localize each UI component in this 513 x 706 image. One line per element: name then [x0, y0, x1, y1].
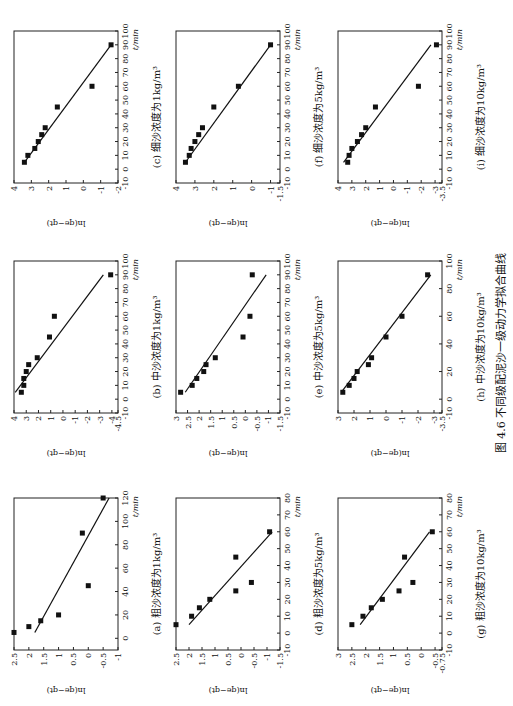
svg-text:t/min: t/min: [293, 29, 302, 50]
svg-text:60: 60: [121, 563, 130, 573]
svg-text:10: 10: [121, 150, 130, 160]
svg-text:-3.5: -3.5: [438, 416, 447, 431]
svg-text:0: 0: [248, 186, 257, 191]
svg-text:t/min: t/min: [293, 259, 302, 280]
svg-text:20: 20: [121, 136, 130, 146]
svg-text:80: 80: [283, 54, 292, 64]
svg-text:60: 60: [121, 81, 130, 91]
svg-text:40: 40: [283, 560, 292, 570]
figure-landscape: 0204060801001202.521.510.50-0.5-1t/minln…: [0, 0, 513, 706]
svg-text:2: 2: [45, 186, 54, 191]
svg-text:0.5: 0.5: [403, 653, 412, 666]
svg-text:0.5: 0.5: [230, 416, 239, 429]
svg-text:0: 0: [417, 653, 426, 658]
svg-text:40: 40: [121, 586, 130, 596]
svg-text:-2: -2: [83, 416, 92, 424]
svg-text:-1: -1: [403, 186, 412, 194]
svg-text:t/min: t/min: [131, 29, 140, 50]
svg-text:40: 40: [445, 339, 454, 349]
svg-text:2: 2: [34, 416, 43, 421]
svg-text:0: 0: [445, 631, 454, 636]
svg-text:-0.5: -0.5: [250, 653, 259, 668]
svg-text:20: 20: [121, 366, 130, 376]
svg-text:-0.5: -0.5: [99, 653, 108, 668]
svg-text:3: 3: [172, 416, 181, 421]
svg-text:90: 90: [283, 40, 292, 50]
svg-text:-0.75: -0.75: [438, 653, 447, 674]
svg-text:120: 120: [121, 490, 130, 505]
svg-text:-1: -1: [398, 416, 407, 424]
panel-caption: (g) 粗沙浓度为10kg/m³: [472, 470, 487, 698]
svg-text:t/min: t/min: [455, 259, 464, 280]
svg-text:20: 20: [445, 594, 454, 604]
svg-text:80: 80: [283, 493, 292, 503]
svg-text:-1: -1: [114, 653, 123, 661]
panel-caption: (i) 细沙浓度为10kg/m³: [472, 3, 487, 231]
svg-text:30: 30: [121, 353, 130, 363]
svg-text:0: 0: [389, 186, 398, 191]
svg-text:80: 80: [445, 54, 454, 64]
svg-text:2: 2: [25, 653, 34, 658]
panel-caption: (h) 中沙浓度为10kg/m³: [472, 233, 487, 461]
svg-text:70: 70: [445, 67, 454, 77]
svg-text:50: 50: [121, 325, 130, 335]
svg-text:60: 60: [445, 527, 454, 537]
svg-text:1: 1: [55, 653, 64, 658]
chart-panel-d: -10010203040506070802.521.510.50-0.5-1-1…: [168, 470, 328, 698]
svg-text:10: 10: [445, 611, 454, 621]
svg-text:ln(qe−qt): ln(qe−qt): [209, 449, 248, 458]
svg-text:3: 3: [348, 186, 357, 191]
svg-text:0: 0: [121, 167, 130, 172]
svg-text:0: 0: [283, 167, 292, 172]
svg-text:3: 3: [334, 416, 343, 421]
svg-text:90: 90: [283, 270, 292, 280]
svg-text:2.5: 2.5: [348, 653, 357, 666]
panel-caption: (b) 中沙浓度为1kg/m³: [148, 233, 163, 461]
svg-text:70: 70: [121, 297, 130, 307]
svg-text:10: 10: [445, 150, 454, 160]
svg-text:60: 60: [445, 81, 454, 91]
svg-text:40: 40: [283, 109, 292, 119]
chart-panel-g: -100102030405060708032.521.510.50-0.5-0.…: [330, 470, 490, 698]
svg-text:2: 2: [362, 186, 371, 191]
svg-text:1: 1: [47, 416, 56, 421]
svg-text:-1.5: -1.5: [276, 186, 285, 201]
svg-text:-3.5: -3.5: [438, 186, 447, 201]
svg-text:30: 30: [445, 123, 454, 133]
svg-text:0: 0: [121, 636, 130, 641]
svg-text:70: 70: [445, 510, 454, 520]
svg-text:0: 0: [121, 397, 130, 402]
chart-panel-c: -10010203040506070809010043210-1-2t/minl…: [6, 3, 166, 231]
svg-text:50: 50: [283, 325, 292, 335]
svg-text:-1.5: -1.5: [276, 653, 285, 668]
svg-text:60: 60: [283, 81, 292, 91]
svg-text:10: 10: [283, 150, 292, 160]
svg-text:100: 100: [445, 253, 454, 268]
svg-text:t/min: t/min: [131, 259, 140, 280]
svg-text:10: 10: [121, 380, 130, 390]
svg-text:70: 70: [283, 297, 292, 307]
svg-text:50: 50: [445, 95, 454, 105]
panel-caption: (c) 细沙浓度为1kg/m³: [148, 3, 163, 231]
svg-text:2: 2: [210, 186, 219, 191]
svg-text:20: 20: [445, 136, 454, 146]
svg-text:ln(qe−qt): ln(qe−qt): [371, 449, 410, 458]
svg-text:t/min: t/min: [131, 496, 140, 517]
svg-text:4: 4: [172, 186, 181, 191]
svg-text:80: 80: [121, 54, 130, 64]
svg-text:-1: -1: [267, 186, 276, 194]
svg-text:4: 4: [10, 186, 19, 191]
svg-text:30: 30: [445, 577, 454, 587]
svg-text:0: 0: [84, 653, 93, 658]
chart-panel-i: -10010203040506070809010043210-1-2-3-3.5…: [330, 3, 490, 231]
svg-text:20: 20: [283, 594, 292, 604]
svg-text:-1: -1: [264, 416, 273, 424]
svg-text:ln(qe−qt): ln(qe−qt): [209, 686, 248, 695]
svg-text:4: 4: [334, 186, 343, 191]
svg-text:20: 20: [445, 366, 454, 376]
svg-text:-2: -2: [417, 186, 426, 194]
svg-text:2: 2: [362, 653, 371, 658]
svg-text:t/min: t/min: [455, 496, 464, 517]
panel-caption: (a) 粗沙浓度为1kg/m³: [148, 470, 163, 698]
chart-panel-b: -10010203040506070809010043210-1-2-3-4-4…: [6, 233, 166, 461]
